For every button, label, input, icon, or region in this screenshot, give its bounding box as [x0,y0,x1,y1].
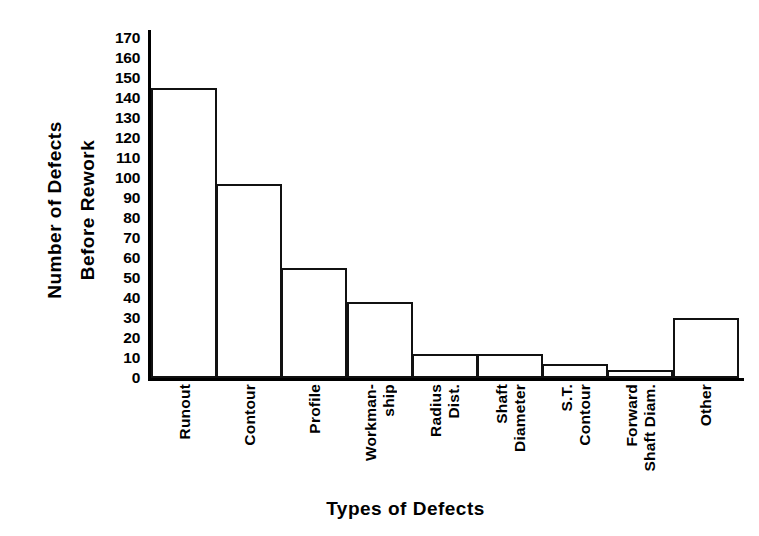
bar [347,302,413,378]
x-axis-category-label: RadiusDist. [412,384,478,492]
x-axis-category-label-line: Profile [306,384,323,434]
y-axis-tick-label: 10 [96,350,140,365]
x-axis-category-label: Other [673,384,739,492]
x-axis-category-label: ShaftDiameter [477,384,543,492]
bar [673,318,739,378]
y-axis-tick-label: 160 [96,50,140,65]
x-axis-category-label-line: Other [697,384,714,426]
bar [607,370,673,378]
y-axis-tick-labels: 1701601501401301201101009080706050403020… [96,0,140,536]
y-axis-tick-label: 80 [96,210,140,225]
y-axis-tick-label: 70 [96,230,140,245]
y-axis-tick-label: 20 [96,330,140,345]
bar [477,354,543,378]
x-axis-category-label: Runout [151,384,217,492]
y-axis-tick-label: 90 [96,190,140,205]
bar [151,88,217,378]
bar [542,364,608,378]
x-axis-category-label-line: Dist. [445,384,462,419]
y-axis-tick-label: 150 [96,70,140,85]
y-axis-tick-label: 40 [96,290,140,305]
y-axis-title: Number of Defects Before Rework [10,40,100,380]
y-axis-tick-label: 100 [96,170,140,185]
x-axis-category-label: Workman-ship [347,384,413,492]
y-axis-tick-label: 60 [96,250,140,265]
x-axis-category-label-line: Runout [176,384,193,439]
bar-series [151,30,748,379]
x-axis-category-label: Contour [216,384,282,492]
x-axis-category-label-line: Radius [427,384,444,437]
y-axis-tick-label: 170 [96,30,140,45]
y-axis-title-line-1: Number of Defects [42,40,68,380]
y-axis-tick-label: 110 [96,150,140,165]
y-axis-tick-label: 30 [96,310,140,325]
x-axis-category-label-line: Forward [623,384,640,447]
x-axis-category-label-line: S.T. [558,384,575,412]
y-axis-tick-label: 50 [96,270,140,285]
x-axis-title: Types of Defects [0,498,759,520]
x-axis-category-label-line: Contour [241,384,258,446]
x-axis-category-label: ForwardShaft Diam. [607,384,673,492]
plot-area [148,30,748,382]
x-axis-category-label-line: Diameter [511,384,528,452]
x-axis-category-label-line: Shaft Diam. [641,384,658,471]
x-axis-category-labels: RunoutContourProfileWorkman-shipRadiusDi… [148,384,748,492]
x-axis-category-label-line: ship [380,384,397,417]
y-axis-tick-label: 130 [96,110,140,125]
bar [216,184,282,378]
x-axis-category-label: S.T.Contour [542,384,608,492]
x-axis-category-label-line: Workman- [362,384,379,461]
y-axis-tick-label: 0 [96,370,140,385]
y-axis-tick-label: 140 [96,90,140,105]
x-axis-category-label: Profile [281,384,347,492]
pareto-chart: Number of Defects Before Rework 17016015… [0,0,759,536]
bar [412,354,478,378]
x-axis-category-label-line: Contour [576,384,593,446]
x-axis-category-label-line: Shaft [493,384,510,424]
bar [281,268,347,378]
y-axis-tick-label: 120 [96,130,140,145]
